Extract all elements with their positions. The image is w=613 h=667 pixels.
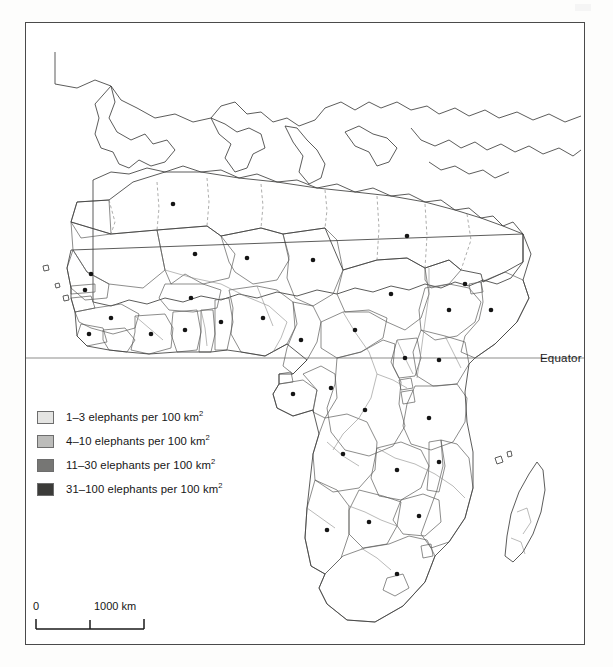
- scalebar-distance-label: 1000 km: [94, 600, 136, 612]
- scalebar-zero-label: 0: [33, 600, 39, 612]
- legend-label-class1: 1–3 elephants per 100 km2: [66, 411, 203, 423]
- legend-label-class3: 11–30 elephants per 100 km2: [66, 459, 215, 471]
- legend-item: 4–10 elephants per 100 km2: [37, 429, 287, 453]
- scalebar: 0 1000 km: [33, 600, 183, 634]
- africa-elephant-density-map: .c0 { fill:#ffffff; } .c1 { fill:#e4e4e2…: [25, 22, 585, 645]
- legend-item: 1–3 elephants per 100 km2: [37, 405, 287, 429]
- legend-swatch-class2: [37, 435, 54, 448]
- legend: 1–3 elephants per 100 km2 4–10 elephants…: [37, 405, 287, 501]
- equator-label: Equator: [540, 352, 582, 364]
- legend-swatch-class4: [37, 483, 54, 496]
- scan-artifact: [575, 4, 591, 11]
- map-page: .c0 { fill:#ffffff; } .c1 { fill:#e4e4e2…: [0, 0, 613, 667]
- legend-label-class4: 31–100 elephants per 100 km2: [66, 483, 223, 495]
- legend-item: 11–30 elephants per 100 km2: [37, 453, 287, 477]
- legend-label-class2: 4–10 elephants per 100 km2: [66, 435, 210, 447]
- legend-swatch-class3: [37, 459, 54, 472]
- legend-swatch-class1: [37, 411, 54, 424]
- map-frame: .c0 { fill:#ffffff; } .c1 { fill:#e4e4e2…: [25, 22, 585, 645]
- scalebar-graphic: [35, 618, 155, 634]
- legend-item: 31–100 elephants per 100 km2: [37, 477, 287, 501]
